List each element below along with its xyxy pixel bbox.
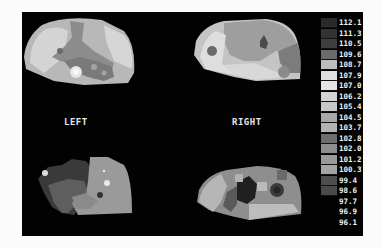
legend-item: 107.9 (320, 71, 363, 82)
legend-value: 105.4 (339, 102, 362, 112)
right-label: RIGHT (232, 117, 262, 127)
brain-map-bottom-left (28, 157, 134, 219)
legend-value: 106.2 (339, 92, 362, 102)
legend-value: 96.9 (339, 207, 357, 217)
legend-item: 108.7 (320, 60, 363, 71)
legend-value: 103.7 (339, 123, 362, 133)
legend-swatch (321, 207, 337, 217)
legend-swatch (321, 123, 337, 133)
legend-swatch (321, 134, 337, 144)
brain-map-top-right (194, 17, 302, 83)
legend-item: 110.5 (320, 39, 363, 50)
legend-swatch (321, 18, 337, 28)
legend-swatch (321, 71, 337, 81)
color-legend: 112.1 111.3 110.5 109.6 108.7 107.9 107.… (320, 18, 363, 228)
legend-value: 99.4 (339, 176, 357, 186)
legend-value: 97.7 (339, 197, 357, 207)
legend-item: 96.1 (320, 218, 363, 229)
legend-item: 102.8 (320, 134, 363, 145)
legend-value: 102.8 (339, 134, 362, 144)
legend-value: 104.5 (339, 113, 362, 123)
legend-swatch (321, 155, 337, 165)
legend-item: 109.6 (320, 50, 363, 61)
legend-value: 98.6 (339, 186, 357, 196)
legend-value: 101.2 (339, 155, 362, 165)
legend-value: 110.5 (339, 39, 362, 49)
legend-swatch (321, 29, 337, 39)
brain-map-panel: LEFT RIGHT 112.1 (22, 12, 363, 236)
legend-swatch (321, 102, 337, 112)
brain-map-bottom-right (197, 164, 303, 222)
legend-swatch (321, 39, 337, 49)
legend-item: 107.0 (320, 81, 363, 92)
legend-item: 96.9 (320, 207, 363, 218)
legend-item: 104.5 (320, 113, 363, 124)
legend-value: 109.6 (339, 50, 362, 60)
legend-item: 111.3 (320, 29, 363, 40)
legend-swatch (321, 197, 337, 207)
legend-item: 103.7 (320, 123, 363, 134)
legend-value: 100.3 (339, 165, 362, 175)
legend-item: 105.4 (320, 102, 363, 113)
legend-value: 102.0 (339, 144, 362, 154)
legend-value: 107.9 (339, 71, 362, 81)
legend-item: 100.3 (320, 165, 363, 176)
legend-item: 102.0 (320, 144, 363, 155)
legend-value: 107.0 (339, 81, 362, 91)
legend-item: 99.4 (320, 176, 363, 187)
legend-value: 112.1 (339, 18, 362, 28)
legend-swatch (321, 144, 337, 154)
legend-value: 96.1 (339, 218, 357, 228)
legend-swatch (321, 92, 337, 102)
legend-item: 97.7 (320, 197, 363, 208)
legend-item: 101.2 (320, 155, 363, 166)
left-label: LEFT (64, 117, 88, 127)
brain-map-top-left (24, 17, 136, 87)
legend-swatch (321, 176, 337, 186)
legend-value: 111.3 (339, 29, 362, 39)
legend-item: 106.2 (320, 92, 363, 103)
legend-item: 112.1 (320, 18, 363, 29)
legend-swatch (321, 81, 337, 91)
legend-swatch (321, 218, 337, 228)
legend-swatch (321, 165, 337, 175)
legend-item: 98.6 (320, 186, 363, 197)
legend-swatch (321, 50, 337, 60)
legend-swatch (321, 60, 337, 70)
legend-swatch (321, 186, 337, 196)
legend-swatch (321, 113, 337, 123)
legend-value: 108.7 (339, 60, 362, 70)
